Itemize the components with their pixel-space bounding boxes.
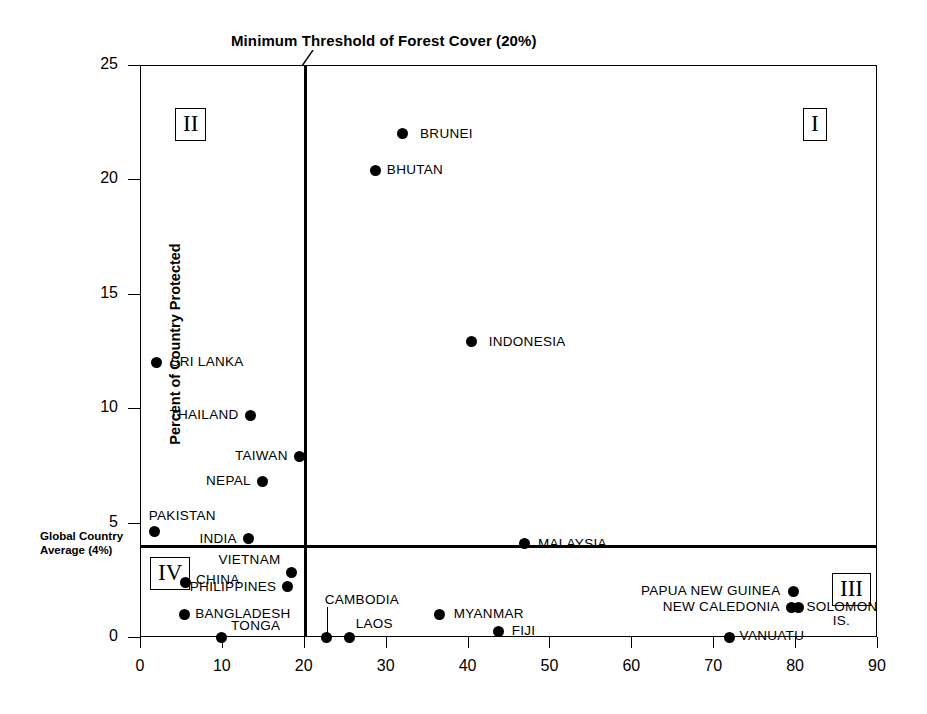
x-tick-label: 40: [448, 657, 488, 675]
global-average-label-line1: Global Country: [40, 529, 123, 543]
data-point[interactable]: [245, 410, 256, 421]
threshold-line-vertical: [304, 65, 307, 637]
y-axis-label: Percent of Country Protected: [167, 214, 183, 474]
x-tick-label: 30: [366, 657, 406, 675]
data-point-label: THAILAND: [169, 408, 238, 422]
y-tick-mark: [128, 179, 140, 180]
y-tick-mark: [128, 523, 140, 524]
data-point-label: INDIA: [199, 532, 237, 546]
x-tick-mark: [549, 637, 550, 648]
data-point-label: VANUATU: [740, 629, 805, 643]
data-point-label: INDONESIA: [489, 335, 566, 349]
title-leader-line: [300, 50, 314, 66]
chart-page: Minimum Threshold of Forest Cover (20%) …: [0, 0, 927, 714]
data-point-label: NEW CALEDONIA: [663, 600, 780, 614]
x-tick-mark: [304, 637, 305, 648]
data-point-label: SOLOMON IS.: [806, 600, 876, 628]
data-point-label: TONGA: [231, 619, 280, 633]
x-tick-label: 50: [529, 657, 569, 675]
x-tick-label: 80: [775, 657, 815, 675]
y-tick-mark: [128, 294, 140, 295]
data-point-label: FIJI: [512, 624, 536, 638]
data-point[interactable]: [282, 581, 293, 592]
data-point[interactable]: [370, 165, 381, 176]
global-average-label: Global CountryAverage (4%): [40, 529, 123, 557]
x-tick-label: 90: [857, 657, 897, 675]
data-point-label: CAMBODIA: [325, 593, 399, 607]
data-point-label: TAIWAN: [235, 449, 288, 463]
quadrant-box-ii: II: [175, 108, 206, 141]
data-point-label: PAPUA NEW GUINEA: [641, 584, 781, 598]
global-average-label-line2: Average (4%): [40, 543, 123, 557]
x-tick-mark: [713, 637, 714, 648]
x-tick-label: 10: [202, 657, 242, 675]
data-point-label: MALAYSIA: [538, 537, 607, 551]
data-point[interactable]: [216, 632, 227, 643]
data-point[interactable]: [179, 609, 190, 620]
data-point-label: BRUNEI: [420, 127, 473, 141]
y-tick-label: 5: [78, 513, 118, 531]
y-tick-label: 10: [78, 398, 118, 416]
data-point[interactable]: [344, 632, 355, 643]
x-tick-mark: [468, 637, 469, 648]
x-tick-label: 20: [284, 657, 324, 675]
data-point-label: BHUTAN: [387, 163, 443, 177]
y-tick-mark: [128, 637, 140, 638]
x-tick-label: 0: [120, 657, 160, 675]
chart-title: Minimum Threshold of Forest Cover (20%): [231, 32, 537, 49]
data-point[interactable]: [397, 128, 408, 139]
x-tick-label: 60: [611, 657, 651, 675]
label-leader-line: [327, 607, 328, 637]
x-tick-label: 70: [693, 657, 733, 675]
data-point[interactable]: [724, 632, 735, 643]
quadrant-box-i: I: [803, 108, 827, 141]
data-point-label: PAKISTAN: [149, 509, 216, 523]
y-tick-label: 20: [78, 169, 118, 187]
y-tick-label: 0: [78, 627, 118, 645]
data-point[interactable]: [493, 626, 504, 637]
data-point[interactable]: [788, 586, 799, 597]
data-point-label: SRI LANKA: [170, 355, 243, 369]
x-tick-mark: [140, 637, 141, 648]
data-point-label: PHILIPPINES: [190, 580, 277, 594]
x-tick-mark: [386, 637, 387, 648]
x-tick-mark: [631, 637, 632, 648]
y-tick-mark: [128, 408, 140, 409]
data-point-label: MYANMAR: [454, 607, 524, 621]
data-point[interactable]: [151, 357, 162, 368]
data-point-label: LAOS: [356, 617, 393, 631]
x-tick-mark: [877, 637, 878, 648]
data-point[interactable]: [434, 609, 445, 620]
average-line-horizontal: [140, 545, 877, 548]
data-point[interactable]: [294, 451, 305, 462]
data-point[interactable]: [793, 602, 804, 613]
y-tick-label: 15: [78, 284, 118, 302]
data-point-label: NEPAL: [206, 474, 251, 488]
data-point-label: VIETNAM: [218, 553, 280, 567]
y-tick-mark: [128, 65, 140, 66]
y-tick-label: 25: [78, 55, 118, 73]
